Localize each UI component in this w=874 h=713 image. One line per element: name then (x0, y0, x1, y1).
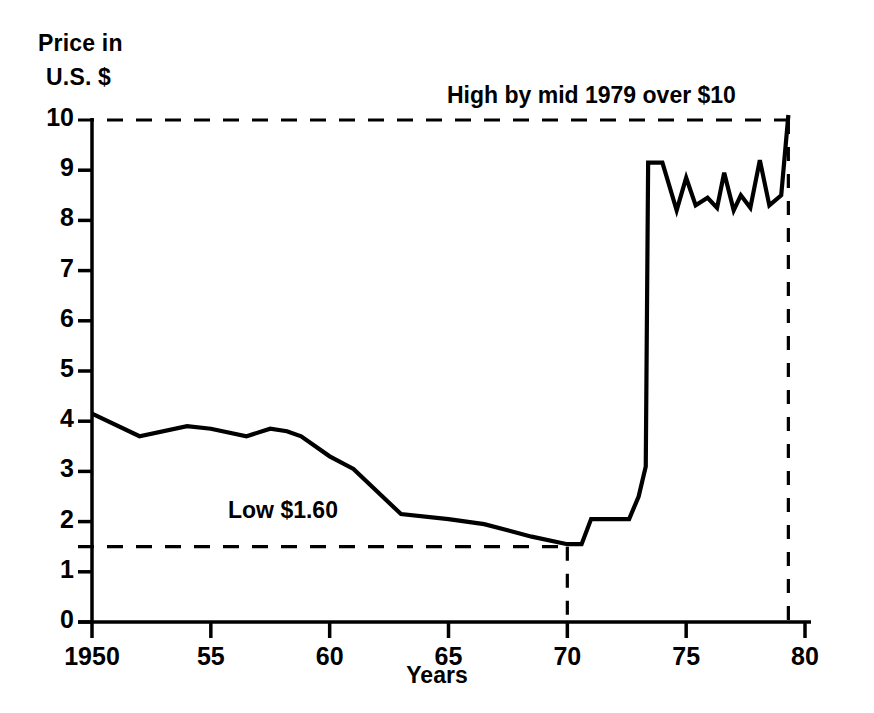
price-chart: Price in U.S. $ High by mid 1979 over $1… (0, 0, 874, 713)
data-series-group (92, 115, 788, 544)
axes-group (78, 118, 811, 638)
plot-area (0, 0, 874, 713)
series-line-0 (92, 115, 788, 544)
